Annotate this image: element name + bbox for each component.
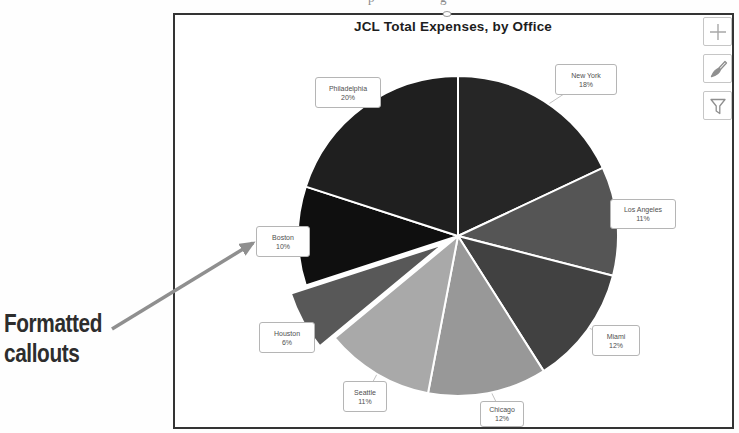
callout-label: Houston xyxy=(274,329,300,338)
callout-boston: Boston10% xyxy=(256,226,310,257)
callout-label: Miami xyxy=(607,332,626,341)
callout-percent: 20% xyxy=(341,93,355,102)
annotation-line-1: Formatted xyxy=(4,308,102,338)
chart-elements-button[interactable] xyxy=(703,17,732,46)
chart-title: JCL Total Expenses, by Office xyxy=(193,19,713,34)
funnel-icon xyxy=(707,95,729,117)
page: p g Formatted callouts JCL Total Expense… xyxy=(0,0,739,433)
callout-percent: 10% xyxy=(276,242,290,251)
callout-label: Los Angeles xyxy=(624,205,662,214)
callout-philadelphia: Philadelphia20% xyxy=(315,77,381,108)
callout-label: New York xyxy=(571,71,601,80)
callout-percent: 6% xyxy=(282,338,292,347)
callout-miami: Miami12% xyxy=(592,325,640,356)
annotation-formatted-callouts: Formatted callouts xyxy=(4,308,102,368)
callout-label: Philadelphia xyxy=(329,84,367,93)
chart-filters-button[interactable] xyxy=(703,91,732,120)
callout-chicago: Chicago12% xyxy=(480,401,524,427)
callout-houston: Houston6% xyxy=(259,322,315,353)
callout-percent: 12% xyxy=(609,341,623,350)
callout-percent: 11% xyxy=(636,214,650,223)
annotation-line-2: callouts xyxy=(4,338,102,368)
pie-slices xyxy=(291,76,618,396)
chart-buttons xyxy=(703,17,732,120)
annotation-arrow xyxy=(112,243,253,329)
callout-label: Boston xyxy=(272,233,294,242)
callout-percent: 12% xyxy=(495,414,509,423)
cropped-text-artifact: p xyxy=(368,0,375,6)
callout-new-york: New York18% xyxy=(555,64,617,95)
callout-los-angeles: Los Angeles11% xyxy=(610,199,676,229)
border-handle xyxy=(443,12,451,17)
cropped-text-artifact: g xyxy=(440,0,447,6)
callout-seattle: Seattle11% xyxy=(343,381,387,412)
brush-icon xyxy=(707,58,729,80)
callout-percent: 18% xyxy=(579,80,593,89)
plus-icon xyxy=(707,21,729,43)
callout-label: Seattle xyxy=(354,388,376,397)
callout-percent: 11% xyxy=(358,397,372,406)
callout-label: Chicago xyxy=(489,405,515,414)
chart-styles-button[interactable] xyxy=(703,54,732,83)
